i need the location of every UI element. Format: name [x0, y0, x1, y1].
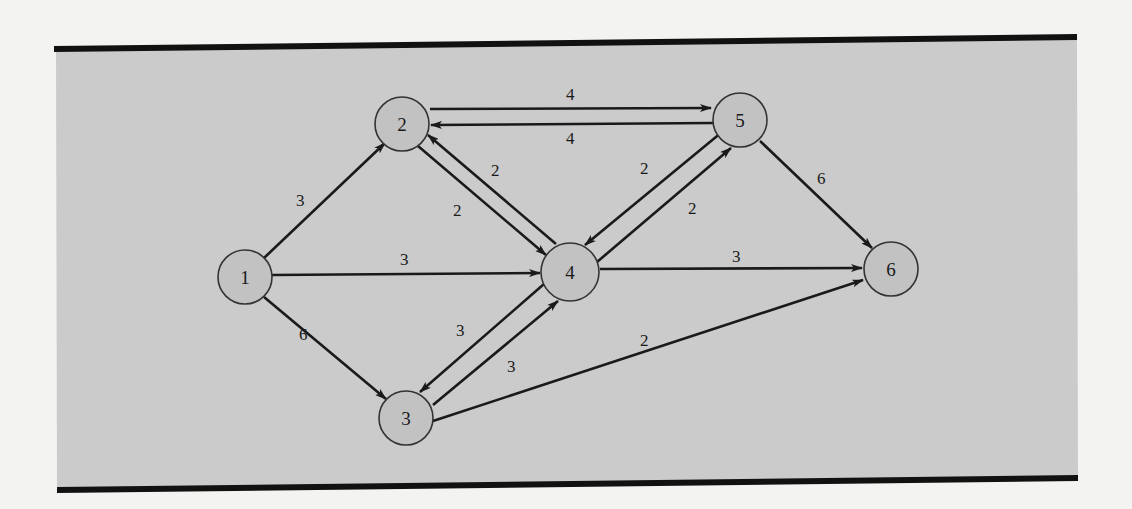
edge-label-4-2: 2 [491, 161, 500, 180]
edge-label-5-6: 6 [817, 169, 826, 188]
edge-2-5 [430, 108, 711, 109]
node-4: 4 [541, 243, 599, 301]
edge-label-2-4: 2 [453, 201, 462, 220]
network-diagram-canvas: 3 3 6 4 4 2 2 2 2 6 3 3 3 2 1 2 3 4 [0, 0, 1132, 509]
edge-label-1-3: 6 [299, 325, 308, 344]
edge-label-4-5: 2 [688, 199, 697, 218]
edge-label-5-4: 2 [640, 159, 649, 178]
node-5: 5 [713, 93, 767, 147]
edge-label-3-4: 3 [507, 357, 516, 376]
node-2: 2 [375, 97, 429, 151]
edge-4-6 [600, 268, 862, 269]
edge-label-1-4: 3 [400, 250, 409, 269]
edge-label-5-2: 4 [566, 129, 575, 148]
edge-label-1-2: 3 [296, 191, 305, 210]
node-label-3: 3 [401, 408, 411, 429]
edge-label-4-6: 3 [732, 247, 741, 266]
network-figure: 3 3 6 4 4 2 2 2 2 6 3 3 3 2 1 2 3 4 [0, 0, 1132, 509]
node-label-6: 6 [886, 259, 896, 280]
edge-label-4-3: 3 [456, 321, 465, 340]
node-1: 1 [218, 250, 272, 304]
edge-label-2-5: 4 [566, 85, 575, 104]
node-label-1: 1 [240, 267, 250, 288]
node-label-4: 4 [565, 262, 575, 283]
node-6: 6 [864, 242, 918, 296]
node-label-5: 5 [735, 110, 745, 131]
node-label-2: 2 [397, 114, 407, 135]
node-3: 3 [379, 391, 433, 445]
edge-label-3-6: 2 [640, 331, 649, 350]
